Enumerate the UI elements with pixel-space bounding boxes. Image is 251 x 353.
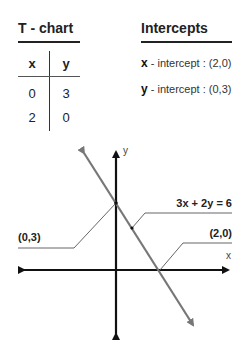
x-intercept-label: (2,0) [209, 227, 232, 239]
equation-point [130, 226, 133, 229]
equation-label: 3x + 2y = 6 [176, 197, 232, 209]
y-intercept-label: (0,3) [18, 231, 41, 243]
y-intercept-point [114, 201, 118, 205]
x-intercept-leader [160, 243, 232, 270]
equation-line [84, 153, 193, 325]
x-axis-label: x [226, 250, 231, 261]
equation-leader [132, 213, 232, 228]
coordinate-graph [0, 0, 251, 353]
y-axis-label: y [123, 145, 128, 156]
